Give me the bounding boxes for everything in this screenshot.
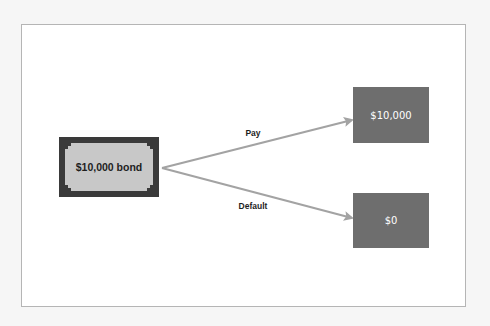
outcome-node-pay: $10,000 — [353, 87, 429, 143]
outcome-label-default: $0 — [385, 215, 398, 226]
outcome-node-default: $0 — [353, 193, 429, 248]
outcome-label-pay: $10,000 — [370, 110, 411, 121]
bond-node: $10,000 bond — [59, 137, 159, 197]
default-label: Default — [239, 201, 268, 211]
diagram-stage: $10,000 bond Pay Default $10,000 $0 — [0, 0, 490, 326]
pay-label: Pay — [245, 128, 260, 138]
diagram-canvas: $10,000 bond Pay Default $10,000 $0 — [0, 0, 490, 326]
bond-label: $10,000 bond — [76, 161, 143, 173]
